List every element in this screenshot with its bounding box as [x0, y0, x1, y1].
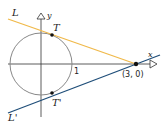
- label-radius-1: 1: [74, 67, 79, 76]
- point-3-0: [134, 62, 138, 66]
- label-L-prime: L': [7, 112, 17, 123]
- x-axis-arrow-icon: [150, 60, 157, 68]
- label-point-3-0: (3, 0): [122, 70, 144, 79]
- tangent-line-L: [8, 19, 136, 64]
- point-T-prime: [50, 91, 54, 95]
- label-x: x: [148, 50, 153, 59]
- label-L: L: [11, 7, 19, 18]
- y-axis-arrow-icon: [37, 13, 45, 19]
- label-T-prime: T': [52, 97, 61, 108]
- label-T: T: [53, 22, 61, 33]
- point-T: [50, 33, 54, 37]
- tangent-lines-diagram: L L' T T' y x 1 (3, 0): [0, 0, 162, 124]
- label-y: y: [46, 11, 52, 20]
